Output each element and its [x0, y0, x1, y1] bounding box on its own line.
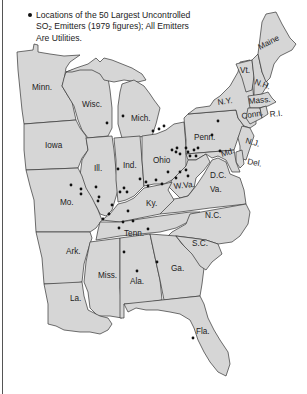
label-la: La.	[70, 294, 81, 303]
emitter-dot	[108, 213, 111, 216]
state-fla[interactable]	[124, 296, 230, 376]
label-ky: Ky.	[146, 199, 157, 208]
label-mich: Mich.	[131, 114, 151, 123]
emitter-dot	[123, 251, 126, 254]
emitter-dot	[217, 120, 220, 123]
label-mo: Mo.	[60, 198, 74, 207]
emitter-dot	[192, 337, 195, 340]
label-dc: D.C.	[210, 171, 226, 180]
emitter-dot	[211, 134, 214, 137]
emitter-dot	[175, 177, 178, 180]
label-ind: Ind.	[123, 161, 137, 170]
state-penn[interactable]	[184, 110, 244, 154]
label-ga: Ga.	[171, 264, 184, 273]
label-ri: R.I.	[269, 109, 283, 119]
label-iowa: Iowa	[45, 141, 63, 150]
emitter-dot	[161, 183, 164, 186]
emitter-dot	[123, 187, 126, 190]
emitter-dot	[117, 168, 120, 171]
emitter-dot	[195, 155, 198, 158]
emitter-dot	[156, 261, 159, 264]
emitter-dot	[179, 171, 182, 174]
emitter-dot	[102, 218, 105, 221]
emitter-dot	[132, 220, 135, 223]
emitter-dot	[179, 153, 182, 156]
emitter-dot	[97, 200, 100, 203]
emitter-dot	[152, 130, 155, 133]
emitter-dot	[126, 191, 129, 194]
emitter-dot	[118, 227, 121, 230]
state-mich[interactable]	[118, 80, 160, 138]
emitter-dot	[185, 147, 188, 150]
label-nc: N.C.	[205, 211, 221, 220]
emitter-dot	[122, 115, 125, 118]
emitter-dot	[80, 188, 83, 191]
label-tenn: Tenn.	[124, 229, 144, 238]
emitter-dot	[187, 175, 190, 178]
emitter-dot	[95, 186, 98, 189]
emitter-dot	[185, 169, 188, 172]
emitter-dot	[175, 151, 178, 154]
label-sc: S.C.	[192, 239, 208, 248]
emitter-dot	[147, 185, 150, 188]
emitter-dot	[119, 191, 122, 194]
label-del: Del.	[247, 157, 263, 168]
label-vt: Vt.	[240, 66, 250, 75]
emitter-dot	[106, 122, 109, 125]
emitter-dot	[127, 210, 130, 213]
emitter-dot	[219, 150, 222, 153]
emitter-dot	[193, 149, 196, 152]
state-ark[interactable]	[36, 232, 92, 284]
emitter-dot	[147, 228, 150, 231]
label-ala: Ala.	[130, 277, 144, 286]
emitter-dot	[197, 147, 200, 150]
emitter-dot	[139, 178, 142, 181]
emitter-dot	[136, 270, 139, 273]
emitter-dot	[145, 181, 148, 184]
label-wisc: Wisc.	[82, 100, 102, 109]
emitter-dot	[158, 128, 161, 131]
emitter-dot	[80, 193, 83, 196]
label-minn: Minn.	[32, 83, 52, 92]
emitter-dot	[122, 221, 125, 224]
emitter-dot	[163, 125, 166, 128]
label-ark: Ark.	[66, 247, 81, 256]
emitter-dot	[98, 196, 101, 199]
label-ill: Ill.	[94, 164, 102, 173]
emitter-dot	[155, 179, 158, 182]
emitter-dot	[176, 147, 179, 150]
emitter-dot	[70, 184, 73, 187]
emitter-dot	[171, 149, 174, 152]
emitter-dot	[189, 155, 192, 158]
eastern-us-map: Minn. Wisc. Mich. Iowa Ill. Ind. Ohio Pe…	[0, 0, 307, 394]
emitter-dot	[167, 171, 170, 174]
emitter-dot	[187, 151, 190, 154]
label-miss: Miss.	[98, 271, 117, 280]
label-fla: Fla.	[196, 327, 210, 336]
label-ohio: Ohio	[153, 156, 171, 165]
label-va: Va.	[210, 185, 222, 194]
emitter-dot	[111, 204, 114, 207]
